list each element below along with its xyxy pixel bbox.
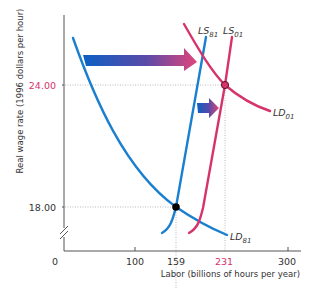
x-tick-label-300: 300 — [278, 256, 296, 267]
x-tick-labels: 0 100 159 231 300 — [52, 256, 296, 267]
y-tick-label-18: 18.00 — [29, 202, 56, 213]
labor-market-chart: 24.00 18.00 0 100 159 231 300 Labor (bil… — [0, 0, 317, 288]
equilibrium-point-1981 — [172, 203, 180, 211]
x-tick-label-231: 231 — [215, 256, 233, 267]
label-ls81: LS81 — [198, 25, 218, 39]
supply-shift-arrow-icon — [197, 98, 219, 118]
y-tick-labels: 24.00 18.00 — [29, 80, 56, 213]
label-ld01: LD01 — [273, 107, 295, 121]
y-tick-label-24: 24.00 — [29, 80, 56, 91]
x-tick-label-100: 100 — [126, 256, 144, 267]
equilibrium-point-2001 — [221, 81, 228, 88]
label-ld81: LD81 — [230, 231, 252, 245]
x-axis-title: Labor (billions of hours per year) — [161, 269, 300, 279]
x-tick-label-159: 159 — [167, 256, 185, 267]
demand-shift-arrow-icon — [83, 48, 197, 71]
axes — [58, 15, 301, 251]
reference-lines — [65, 85, 225, 288]
y-axis-title: Real wage rate (1996 dollars per hour) — [15, 9, 25, 174]
label-ls01: LS01 — [223, 25, 243, 39]
x-tick-label-0: 0 — [52, 256, 58, 267]
